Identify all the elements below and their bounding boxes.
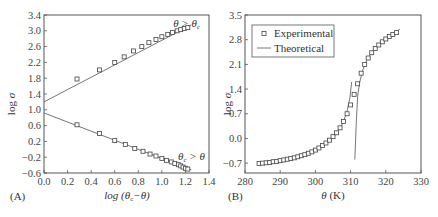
panel-a-label: (A) [10, 190, 26, 203]
data-point-square-marker [97, 132, 101, 136]
data-point-square-marker [123, 143, 127, 147]
data-point-square-marker [366, 56, 370, 60]
panel-a-plot-area [44, 15, 209, 173]
panel-b-x-axis-label: θ (K) [321, 189, 345, 202]
x-tick-label: 0.8 [132, 176, 145, 187]
data-point-square-marker [370, 51, 374, 55]
y-tick-label: 1.8 [28, 73, 41, 84]
legend: Experimental Theoretical [252, 25, 334, 57]
y-tick-label: 3.0 [28, 25, 41, 36]
data-point-square-marker [133, 147, 137, 151]
data-point-square-marker [154, 154, 158, 158]
data-point-square-marker [154, 37, 158, 41]
y-tick-label: 2.2 [28, 57, 41, 68]
panel-a-data-points [75, 26, 190, 171]
panel-b-y-axis-label: log σ [221, 92, 233, 115]
y-tick-label: 2.8 [229, 34, 242, 45]
data-point-square-marker [166, 32, 170, 36]
data-point-square-marker [352, 92, 356, 96]
x-tick-label: 320 [378, 176, 394, 187]
data-point-square-marker [140, 45, 144, 49]
panel-a-fit-lines [44, 25, 191, 170]
x-tick-label: 0.6 [108, 176, 121, 187]
y-tick-label: 0.0 [229, 133, 242, 144]
data-point-square-marker [186, 167, 190, 171]
data-point-square-marker [356, 82, 360, 86]
fit-line [259, 82, 352, 164]
data-point-square-marker [359, 71, 363, 75]
data-point-square-marker [335, 131, 339, 135]
data-point-square-marker [113, 60, 117, 64]
data-point-square-marker [75, 123, 79, 127]
x-tick-label: 0.4 [85, 176, 99, 187]
data-point-square-marker [342, 120, 346, 124]
y-tick-label: 0.6 [28, 120, 41, 131]
legend-experimental: Experimental [274, 27, 333, 39]
data-point-square-marker [331, 135, 335, 139]
data-point-square-marker [122, 55, 126, 59]
x-tick-label: 300 [308, 176, 324, 187]
y-tick-label: 3.5 [229, 10, 242, 21]
x-tick-label: 330 [413, 176, 429, 187]
data-point-square-marker [113, 139, 117, 143]
data-point-square-marker [338, 126, 342, 130]
figure: 0.00.20.40.60.81.01.21.4−0.6−0.20.20.61.… [0, 0, 438, 217]
data-point-square-marker [141, 149, 145, 153]
y-tick-label: −0.2 [22, 152, 41, 163]
x-tick-label: 290 [272, 176, 288, 187]
annotation-theta-gt-thetac: θ > θc [173, 17, 201, 31]
x-tick-label: 1.0 [155, 176, 168, 187]
panel-a-x-axis-label: log (θc−θ) [104, 189, 150, 203]
y-tick-label: −0.7 [223, 158, 242, 169]
data-point-square-marker [132, 49, 136, 53]
y-tick-label: 3.4 [28, 10, 42, 21]
y-tick-label: 2.1 [229, 59, 242, 70]
data-point-square-marker [147, 41, 151, 45]
panel-a-y-axis-label: log σ [5, 92, 17, 115]
y-tick-label: 1.0 [28, 104, 41, 115]
panel-b-label: (B) [228, 190, 243, 203]
data-point-square-marker [97, 68, 101, 72]
data-point-square-marker [170, 30, 174, 34]
legend-theoretical: Theoretical [274, 42, 324, 54]
panel-b-chart: 280290300310320330−0.70.00.71.42.12.83.5… [221, 10, 429, 204]
annotation-thetac-gt-theta: θc > θ [178, 150, 205, 164]
x-tick-label: 1.2 [179, 176, 192, 187]
data-point-square-marker [75, 77, 79, 81]
data-point-square-marker [160, 156, 164, 160]
data-point-square-marker [165, 158, 169, 162]
y-tick-label: −0.6 [22, 168, 41, 179]
y-tick-label: 1.4 [28, 89, 42, 100]
data-point-square-marker [349, 103, 353, 107]
x-tick-label: 0.2 [61, 176, 74, 187]
panel-a-chart: 0.00.20.40.60.81.01.21.4−0.6−0.20.20.61.… [5, 10, 216, 204]
x-tick-label: 310 [343, 176, 359, 187]
data-point-square-marker [148, 152, 152, 156]
data-point-square-marker [345, 112, 349, 116]
y-tick-label: 0.2 [28, 136, 41, 147]
x-tick-label: 280 [237, 176, 253, 187]
data-point-square-marker [394, 31, 398, 35]
y-tick-label: 2.6 [28, 41, 41, 52]
data-point-square-marker [363, 62, 367, 66]
data-point-square-marker [160, 35, 164, 39]
x-tick-label: 1.4 [202, 176, 216, 187]
